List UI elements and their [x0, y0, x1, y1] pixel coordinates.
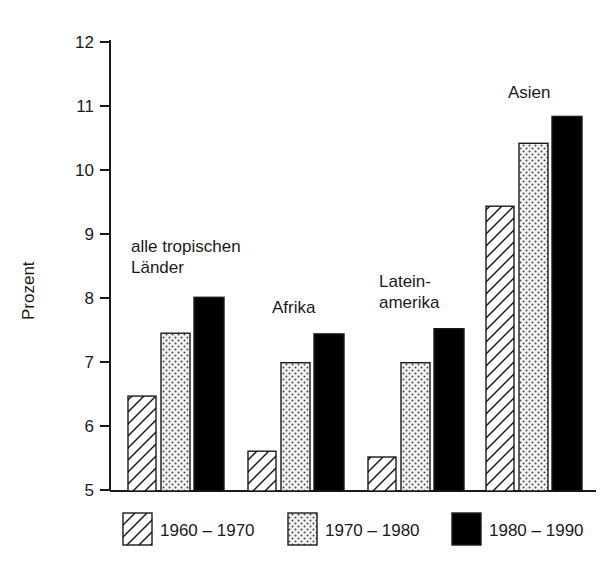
group-label-1-line1: Afrika — [272, 298, 316, 317]
y-axis: 12 11 10 9 8 7 6 5 Prozent — [19, 33, 110, 500]
y-tick-label-6: 6 — [85, 417, 94, 436]
group-label-3-line1: Asien — [508, 83, 551, 102]
bar-g3-s0 — [486, 206, 514, 491]
bar-g3-s2 — [552, 116, 582, 491]
legend-swatch-1970-1980 — [288, 513, 317, 545]
bar-g1-s1 — [281, 363, 310, 491]
bars-layer — [128, 116, 582, 491]
y-tick-label-7: 7 — [85, 353, 94, 372]
bar-g0-s1 — [161, 333, 190, 491]
y-tick-label-12: 12 — [75, 33, 94, 52]
y-tick-label-9: 9 — [85, 225, 94, 244]
bar-g2-s2 — [434, 329, 464, 491]
group-label-2-line1: Latein- — [379, 272, 431, 291]
legend-label-1970-1980: 1970 – 1980 — [325, 521, 420, 540]
bar-g2-s0 — [368, 457, 396, 491]
y-tick-label-11: 11 — [76, 97, 94, 116]
bar-g0-s2 — [194, 297, 224, 491]
y-tick-label-10: 10 — [75, 161, 94, 180]
chart-canvas: 12 11 10 9 8 7 6 5 Prozent — [0, 0, 607, 565]
group-label-0-line2: Länder — [131, 258, 184, 277]
legend-swatch-1980-1990 — [452, 513, 481, 545]
bar-g1-s2 — [314, 334, 344, 491]
legend: 1960 – 1970 1970 – 1980 1980 – 1990 — [123, 513, 584, 545]
legend-label-1960-1970: 1960 – 1970 — [160, 521, 255, 540]
bar-chart: 12 11 10 9 8 7 6 5 Prozent — [0, 0, 607, 565]
y-axis-title: Prozent — [19, 261, 38, 320]
y-tick-label-5: 5 — [85, 481, 94, 500]
group-label-0-line1: alle tropischen — [131, 237, 241, 256]
legend-label-1980-1990: 1980 – 1990 — [489, 521, 584, 540]
bar-g0-s0 — [128, 396, 156, 491]
bar-g3-s1 — [519, 143, 548, 491]
bar-g1-s0 — [248, 451, 276, 491]
y-tick-label-8: 8 — [85, 289, 94, 308]
legend-swatch-1960-1970 — [123, 513, 152, 545]
group-label-2-line2: amerika — [379, 293, 440, 312]
bar-g2-s1 — [401, 363, 430, 491]
